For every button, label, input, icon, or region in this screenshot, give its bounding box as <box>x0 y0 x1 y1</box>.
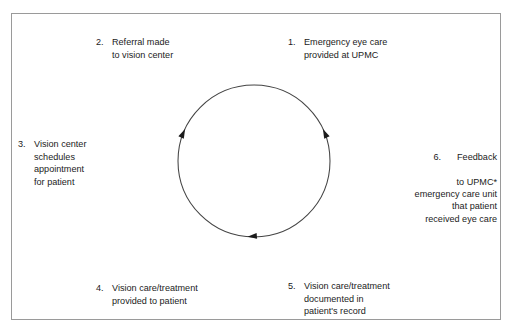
step-number-2: 2. <box>96 36 105 48</box>
step-number-3: 3. <box>18 138 27 150</box>
step-label-3: 3. Vision center schedules appointment f… <box>18 126 86 200</box>
step-label-2: 2. Referral made to vision center <box>96 24 173 74</box>
step-6-head-text: Feedback <box>457 152 497 162</box>
step-label-1: 1. Emergency eye care provided at UPMC <box>288 24 387 74</box>
step-number-6: 6. <box>433 151 441 163</box>
step-number-1: 1. <box>288 36 297 48</box>
step-6-head-line: 6.Feedback <box>371 138 497 163</box>
step-label-4: 4. Vision care/treatment provided to pat… <box>96 270 198 320</box>
step-text-4: Vision care/treatment provided to patien… <box>112 282 198 307</box>
step-text-3: Vision center schedules appointment for … <box>34 138 86 188</box>
step-number-4: 4. <box>96 282 105 294</box>
step-text-6: to UPMC* emergency care unit that patien… <box>415 177 497 224</box>
step-number-5: 5. <box>288 280 297 292</box>
step-text-1: Emergency eye care provided at UPMC <box>304 36 387 61</box>
clipped-page-text-above <box>0 0 512 3</box>
step-text-2: Referral made to vision center <box>112 36 173 61</box>
step-label-5: 5. Vision care/treatment documented in p… <box>288 268 390 330</box>
step-label-6: 6.Feedback to UPMC* emergency care unit … <box>371 126 497 225</box>
step-text-5: Vision care/treatment documented in pati… <box>304 280 390 317</box>
